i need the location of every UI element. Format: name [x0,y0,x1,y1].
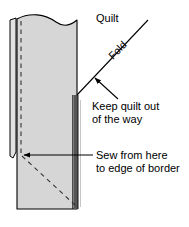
label-keep-quilt-line1: Keep quilt out [92,100,159,112]
label-fold: Fold [106,38,129,61]
label-sew-line2: to edge of border [96,162,180,174]
dark-band-shape [74,95,78,209]
label-sew-line1: Sew from here [96,149,168,161]
left-sliver-strip [10,18,16,158]
arrow-keep-quilt-out [95,78,118,99]
diagram-canvas: Quilt Fold Keep quilt out of the way Sew… [0,0,189,227]
quilt-border-diagram: Quilt Fold Keep quilt out of the way Sew… [0,0,189,227]
left-sliver-shape [10,18,16,158]
label-keep-quilt-line2: of the way [92,113,143,125]
label-quilt: Quilt [96,12,119,24]
